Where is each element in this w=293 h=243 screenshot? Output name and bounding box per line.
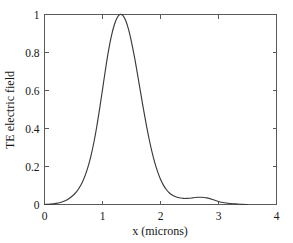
y-tick-label: 0.4 bbox=[25, 123, 40, 135]
x-tick-label: 4 bbox=[274, 210, 280, 222]
x-tick-label: 3 bbox=[216, 210, 222, 222]
x-tick-labels: 01234 bbox=[42, 210, 280, 222]
y-tick-label: 0.2 bbox=[25, 161, 40, 173]
data-series-te-electric-field bbox=[45, 14, 248, 204]
x-tick-label: 1 bbox=[100, 210, 106, 222]
y-tick-label: 0.6 bbox=[25, 85, 40, 97]
x-tick-label: 2 bbox=[158, 210, 164, 222]
y-tick-label: 1 bbox=[34, 9, 40, 21]
x-tick-label: 0 bbox=[42, 210, 48, 222]
axis-ticks bbox=[45, 15, 277, 205]
x-axis-label: x (microns) bbox=[132, 224, 188, 238]
chart-plot: 01234 00.20.40.60.81 x (microns) TE elec… bbox=[0, 0, 293, 243]
y-tick-label: 0.8 bbox=[25, 47, 40, 59]
plot-frame bbox=[45, 15, 277, 205]
figure-canvas: 01234 00.20.40.60.81 x (microns) TE elec… bbox=[0, 0, 293, 243]
y-tick-label: 0 bbox=[34, 199, 40, 211]
y-tick-labels: 00.20.40.60.81 bbox=[25, 9, 40, 211]
y-axis-label: TE electric field bbox=[3, 71, 17, 149]
